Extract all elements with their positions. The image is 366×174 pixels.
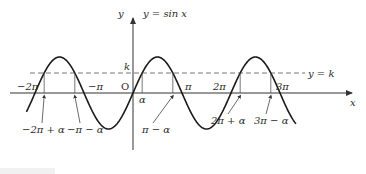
k-label: k: [124, 61, 130, 72]
x-tick-labels: −2π−ππ2π3π: [17, 81, 289, 92]
tick-label-twopi: 2π: [212, 81, 226, 92]
solution-label-s3: π − α: [141, 124, 170, 135]
solution-label-s5: 3π − α: [254, 115, 289, 126]
solution-label-s4: 2π + α: [210, 115, 246, 126]
y-axis-label: y: [117, 8, 124, 19]
tick-label-threepi: 3π: [276, 81, 289, 92]
alpha-label: α: [139, 94, 146, 105]
figure-caption-fragment: [0, 168, 55, 174]
origin-label: O: [121, 81, 129, 92]
x-axis-label: x: [350, 97, 356, 108]
solution-label-s1: −2π + α: [22, 124, 65, 135]
curve-label: y = sin x: [142, 8, 187, 19]
intersection-drop-lines: [44, 73, 271, 93]
tick-label-neg2pi: −2π: [17, 81, 39, 92]
solution-labels: −2π + α−π − απ − α2π + α3π − α: [22, 115, 289, 135]
solution-label-s2: −π − α: [67, 124, 104, 135]
sine-diagram: y y = sin x x O k y = k α −2π−ππ2π3π −2π…: [0, 0, 366, 174]
line-k-label: y = k: [307, 68, 334, 79]
tick-label-negpi: −π: [88, 81, 103, 92]
tick-label-pi: π: [184, 81, 192, 92]
